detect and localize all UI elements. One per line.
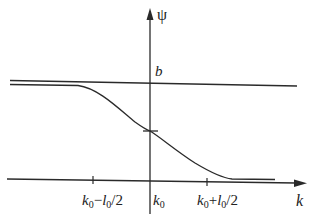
diagram-canvas (0, 0, 315, 224)
tick-label-left: k0−l0/2 (82, 193, 123, 210)
psi-curve (10, 85, 275, 180)
tick-label-right: k0+l0/2 (197, 193, 238, 210)
psi-axis-label: ψ (157, 7, 167, 23)
tick-label-center: k0 (153, 193, 165, 210)
k-axis-arrow-icon (294, 180, 307, 188)
level-b-label: b (155, 64, 163, 79)
psi-axis-arrow-icon (147, 8, 154, 20)
k-axis-label: k (296, 193, 303, 209)
